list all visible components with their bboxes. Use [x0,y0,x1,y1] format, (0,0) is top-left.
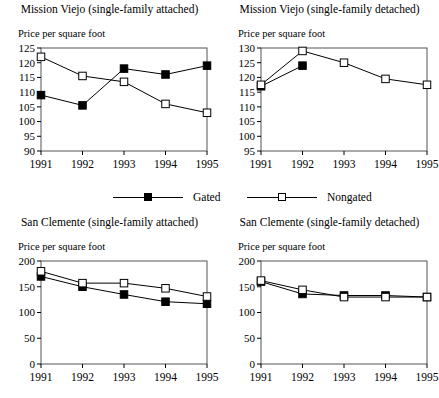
legend-label-nongated: Nongated [327,191,372,203]
open-square-marker [382,293,390,301]
plot-area: 05010015020019911992199319941995 [0,213,219,396]
y-tick-label: 95 [24,130,36,142]
x-tick-label: 1993 [113,158,136,170]
plot-svg-0: 9095100105110115120125199119921993199419… [0,0,219,183]
x-tick-label: 1995 [196,371,219,383]
x-tick-label: 1995 [416,371,439,383]
x-tick-label: 1993 [113,371,136,383]
plot-area: 9510010511011512012513019911992199319941… [220,0,439,183]
y-tick-label: 0 [30,358,36,370]
chart-panel-mission-viejo-detached: Mission Viejo (single-family detached) P… [220,0,439,183]
x-tick-label: 1991 [30,371,53,383]
y-tick-label: 105 [239,115,256,127]
filled-square-marker [162,298,170,306]
x-tick-label: 1994 [154,371,177,383]
series-line-gated [261,66,303,87]
x-tick-label: 1991 [30,158,53,170]
legend-entry-nongated: Nongated [247,188,372,206]
y-tick-label: 130 [239,42,256,54]
y-tick-label: 150 [19,281,36,293]
open-square-marker [120,279,128,287]
y-tick-label: 100 [239,306,256,318]
filled-square-marker [203,62,211,70]
open-square-marker-icon [247,192,317,202]
y-tick-label: 200 [19,255,36,267]
x-tick-label: 1994 [374,158,397,170]
series-line-nongated [261,51,427,85]
open-square-marker [340,59,348,67]
legend: Gated Nongated [0,188,439,210]
open-square-marker [37,268,45,276]
y-tick-label: 100 [19,115,36,127]
x-tick-label: 1994 [374,371,397,383]
open-square-marker [203,293,211,301]
y-tick-label: 100 [239,130,256,142]
chart-panel-san-clemente-detached: San Clemente (single-family detached) Pr… [220,213,439,396]
x-tick-label: 1992 [71,371,94,383]
filled-square-marker [79,102,87,110]
y-tick-label: 120 [19,57,36,69]
y-tick-label: 50 [244,332,256,344]
open-square-marker [340,293,348,301]
x-tick-label: 1992 [291,371,314,383]
open-square-marker [257,277,265,285]
open-square-marker [257,81,265,89]
open-square-marker [162,285,170,293]
open-square-marker [79,72,87,80]
x-tick-label: 1991 [250,371,273,383]
open-square-marker [299,47,307,55]
x-tick-label: 1994 [154,158,177,170]
y-tick-label: 95 [244,145,256,157]
open-square-marker [382,75,390,83]
chart-panel-san-clemente-attached: San Clemente (single-family attached) Pr… [0,213,219,396]
x-tick-label: 1992 [71,158,94,170]
filled-square-marker [120,291,128,299]
filled-square-marker [203,300,211,308]
open-square-marker [79,279,87,287]
open-square-marker [203,109,211,117]
y-tick-label: 0 [250,358,256,370]
plot-area: 05010015020019911992199319941995 [220,213,439,396]
y-tick-label: 115 [239,86,256,98]
chart-panel-mission-viejo-attached: Mission Viejo (single-family attached) P… [0,0,219,183]
y-tick-label: 125 [19,42,36,54]
x-tick-label: 1991 [250,158,273,170]
plot-frame [41,48,207,151]
plot-frame [41,261,207,364]
open-square-marker [423,81,431,89]
plot-svg-3: 05010015020019911992199319941995 [220,213,439,396]
plot-svg-1: 9510010511011512012513019911992199319941… [220,0,439,183]
open-square-marker [162,100,170,108]
y-tick-label: 115 [19,71,36,83]
y-tick-label: 110 [239,101,256,113]
filled-square-marker [120,65,128,73]
filled-square-marker [299,62,307,70]
filled-square-marker [162,71,170,79]
open-square-marker [423,293,431,301]
x-tick-label: 1995 [416,158,439,170]
x-tick-label: 1993 [333,158,356,170]
plot-area: 9095100105110115120125199119921993199419… [0,0,219,183]
plot-frame [261,261,427,364]
open-square-marker [299,286,307,294]
y-tick-label: 120 [239,71,256,83]
legend-entry-gated: Gated [113,188,220,206]
x-tick-label: 1993 [333,371,356,383]
y-tick-label: 50 [24,332,36,344]
filled-square-marker [37,91,45,99]
plot-svg-2: 05010015020019911992199319941995 [0,213,219,396]
legend-label-gated: Gated [193,191,220,203]
x-tick-label: 1995 [196,158,219,170]
y-tick-label: 105 [19,101,36,113]
y-tick-label: 100 [19,306,36,318]
open-square-marker [120,78,128,86]
y-tick-label: 110 [19,86,36,98]
y-tick-label: 125 [239,57,256,69]
y-tick-label: 150 [239,281,256,293]
x-tick-label: 1992 [291,158,314,170]
open-square-marker [37,53,45,61]
filled-square-marker-icon [113,192,183,202]
y-tick-label: 200 [239,255,256,267]
y-tick-label: 90 [24,145,36,157]
